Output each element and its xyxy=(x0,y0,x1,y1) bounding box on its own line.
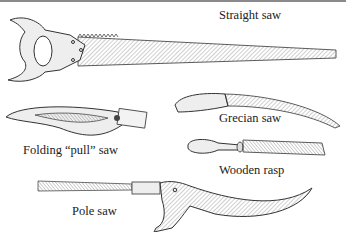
label-grecian-saw: Grecian saw xyxy=(219,111,281,126)
label-wooden-rasp: Wooden rasp xyxy=(219,163,284,178)
saws-illustration xyxy=(0,0,346,232)
label-folding-pull-saw: Folding “pull” saw xyxy=(23,143,118,158)
label-pole-saw: Pole saw xyxy=(72,204,117,219)
wooden-rasp-drawing xyxy=(188,139,325,155)
folding-pull-saw-drawing xyxy=(6,107,147,135)
label-straight-saw: Straight saw xyxy=(219,8,281,23)
straight-saw-drawing xyxy=(8,18,336,81)
